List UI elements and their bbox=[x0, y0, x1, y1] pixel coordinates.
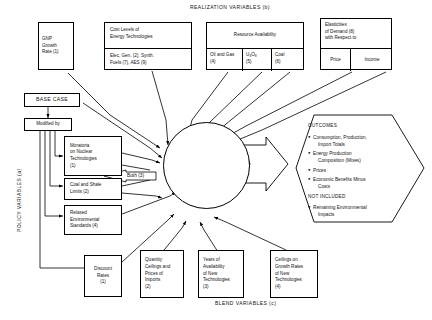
outcome-bullet-3: ● Economic Benefits Minus Costs bbox=[308, 176, 420, 190]
resource-availability-box[interactable]: Resource Availability Oil and Gas (4) U3… bbox=[206, 22, 304, 70]
gnp-line3: Rate (1) bbox=[42, 49, 70, 56]
modified-by-box[interactable]: Modified by bbox=[24, 118, 72, 131]
gnp-line1: GNP bbox=[42, 36, 70, 43]
quantity-line5: (2) bbox=[145, 284, 180, 291]
outcome-1-line2: Composition (Mixes) bbox=[313, 157, 361, 164]
coal-shale-line2: Limits (2) bbox=[70, 189, 118, 196]
resource-availability-header: Resource Availability bbox=[207, 23, 303, 49]
coal-line2: (6) bbox=[275, 59, 302, 66]
base-case-label: BASE CASE bbox=[36, 96, 68, 104]
ceilings-line3: of New bbox=[275, 271, 314, 278]
coal-shale-limits-box[interactable]: Coal and Shale Limits (2) bbox=[64, 178, 122, 200]
years-line1: Years of bbox=[203, 257, 240, 264]
cost-levels-header-line2: Energy Technologies bbox=[110, 34, 186, 41]
moratoria-line1: Moratoria bbox=[70, 143, 118, 150]
bullet-dot-icon: ● bbox=[308, 204, 311, 218]
elasticities-header-line3: with Respect to bbox=[325, 35, 387, 42]
gnp-line2: Growth bbox=[42, 43, 70, 50]
gnp-growth-rate-box[interactable]: GNP Growth Rate (1) bbox=[38, 22, 74, 70]
outcome-0-line1: Consumption, Production, bbox=[313, 135, 367, 140]
cost-levels-box[interactable]: Cost Levels of Energy Technologies Elec.… bbox=[104, 22, 192, 70]
bullet-dot-icon: ● bbox=[308, 176, 311, 190]
ceilings-growth-rates-box[interactable]: Ceilings on Growth Rates of New Technolo… bbox=[270, 250, 318, 298]
discount-rates-box[interactable]: Discount Rates (1) bbox=[84, 255, 122, 297]
years-availability-new-tech-box[interactable]: Years of Availability of New Technologie… bbox=[198, 250, 244, 298]
ceilings-line2: Growth Rates bbox=[275, 264, 314, 271]
relaxed-environmental-box[interactable]: Relaxed Environmental Standards (4) bbox=[64, 205, 122, 235]
modified-by-label: Modified by bbox=[36, 121, 60, 128]
outcome-bullet-1: ● Energy Production Composition (Mixes) bbox=[308, 150, 420, 164]
blend-variables-title: BLEND VARIABLES (c) bbox=[215, 300, 355, 306]
discount-line2: Rates bbox=[97, 273, 109, 280]
u3o8-line2: (5) bbox=[246, 59, 268, 66]
cost-levels-header-line1: Cost Levels of bbox=[110, 27, 186, 34]
moratoria-nuclear-box[interactable]: Moratoria on Nuclear Technologies (1) bbox=[64, 136, 122, 176]
cost-levels-header: Cost Levels of Energy Technologies bbox=[105, 23, 191, 49]
elasticities-cell-income[interactable]: Income bbox=[351, 49, 393, 71]
moratoria-line2: on Nuclear bbox=[70, 149, 118, 156]
bullet-dot-icon: ● bbox=[308, 134, 311, 148]
years-line5: (3) bbox=[203, 284, 240, 291]
energy-models-circle[interactable] bbox=[163, 122, 250, 209]
elasticities-of-demand-box[interactable]: Elasticities of Demand (8) with Respect … bbox=[320, 18, 392, 70]
outcome-bullet-2: ● Prices bbox=[308, 167, 420, 174]
quantity-line2: Ceilings and bbox=[145, 264, 180, 271]
ceilings-line5: (4) bbox=[275, 284, 314, 291]
bullet-dot-icon: ● bbox=[308, 150, 311, 164]
ceilings-line1: Ceilings on bbox=[275, 257, 314, 264]
resource-cell-coal[interactable]: Coal (6) bbox=[272, 49, 305, 71]
elasticities-cell-price[interactable]: Price bbox=[321, 49, 351, 71]
years-line2: Availability bbox=[203, 264, 240, 271]
link-moratoria-to-funnel bbox=[122, 165, 150, 170]
discount-line1: Discount bbox=[94, 266, 112, 273]
quantity-line4: Imports bbox=[145, 277, 180, 284]
resource-cell-oil-and-gas[interactable]: Oil and Gas (4) bbox=[207, 49, 243, 71]
ceilings-line4: Technologies bbox=[275, 277, 314, 284]
outcome-1-line1: Energy Production bbox=[313, 151, 352, 156]
relaxed-line1: Relaxed bbox=[70, 210, 118, 217]
not-included-0-line1: Remaining Environmental bbox=[313, 205, 367, 210]
not-included-0-line2: Impacts bbox=[313, 211, 334, 218]
link-cost-to-models bbox=[152, 71, 168, 145]
oil-and-gas-line1: Oil and Gas bbox=[210, 52, 239, 59]
years-line3: of New bbox=[203, 271, 240, 278]
cost-levels-body: Elec. Gen. (2), Synth. Fuels (7), AES (9… bbox=[105, 49, 191, 71]
moratoria-line4: (1) bbox=[70, 163, 118, 170]
discount-line3: (1) bbox=[100, 279, 106, 286]
elasticities-header: Elasticities of Demand (8) with Respect … bbox=[321, 19, 391, 49]
outcome-3-line2: Costs bbox=[313, 183, 330, 190]
quantity-ceilings-imports-box[interactable]: Quantity Ceilings and Prices of Imports … bbox=[140, 250, 184, 298]
coal-line1: Coal bbox=[275, 52, 302, 59]
outcome-3-line1: Economic Benefits Minus bbox=[313, 177, 366, 182]
base-case-box[interactable]: BASE CASE bbox=[24, 93, 80, 107]
elasticities-header-line1: Elasticities bbox=[325, 22, 387, 29]
outcome-0-line2: Import Totals bbox=[313, 141, 345, 148]
outcome-2-line1: Prices bbox=[313, 167, 420, 174]
relaxed-line2: Environmental bbox=[70, 217, 118, 224]
not-included-bullet-0: ● Remaining Environmental Impacts bbox=[308, 204, 420, 218]
both-label: Both (3) bbox=[126, 173, 145, 178]
diagram-canvas: REALIZATION VARIABLES (b) POLICY VARIABL… bbox=[0, 0, 432, 320]
relaxed-line3: Standards (4) bbox=[70, 223, 118, 230]
outcomes-title: OUTCOMES bbox=[308, 122, 420, 129]
link-coalshale-to-models bbox=[122, 193, 162, 198]
years-line4: Technologies bbox=[203, 277, 240, 284]
realization-variables-title: REALIZATION VARIABLES (b) bbox=[150, 4, 310, 10]
policy-variables-title: POLICY VARIABLES (a) bbox=[16, 168, 22, 232]
elasticities-header-line2: of Demand (8) bbox=[325, 29, 387, 36]
cost-levels-body-line2: Fuels (7), AES (9) bbox=[110, 60, 186, 67]
outcome-bullet-0: ● Consumption, Production, Import Totals bbox=[308, 134, 420, 148]
coal-shale-line1: Coal and Shale bbox=[70, 182, 118, 189]
bullet-dot-icon: ● bbox=[308, 167, 311, 174]
link-moratoria-to-models bbox=[122, 153, 160, 163]
quantity-line3: Prices of bbox=[145, 271, 180, 278]
moratoria-line3: Technologies bbox=[70, 156, 118, 163]
outcomes-content: OUTCOMES ● Consumption, Production, Impo… bbox=[308, 122, 420, 220]
link-years-to-models bbox=[200, 222, 218, 252]
link-ceilings-to-models bbox=[214, 217, 286, 250]
resource-cell-u3o8[interactable]: U3O8 (5) bbox=[243, 49, 272, 71]
cost-levels-body-line1: Elec. Gen. (2), Synth. bbox=[110, 53, 186, 60]
not-included-title: NOT INCLUDED bbox=[308, 193, 420, 200]
u3o8-line1: U3O8 bbox=[246, 52, 268, 59]
oil-and-gas-line2: (4) bbox=[210, 59, 239, 66]
